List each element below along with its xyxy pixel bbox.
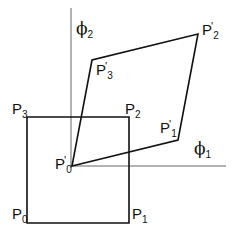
phi2-axis-label: ϕ2 (76, 20, 93, 40)
point-p2-prime-label: P'2 (202, 21, 219, 41)
point-p3-label: P3 (12, 101, 28, 120)
point-p0-prime-label: P'0 (55, 155, 72, 175)
point-p0-label: P0 (12, 206, 28, 225)
point-p1-label: P1 (132, 206, 148, 225)
point-p1-prime-label: P'1 (160, 119, 177, 139)
diagram-canvas (0, 0, 235, 240)
phi1-axis-label: ϕ1 (194, 140, 211, 160)
point-p3-prime-label: P'3 (96, 61, 113, 81)
point-p2-label: P2 (125, 101, 141, 120)
